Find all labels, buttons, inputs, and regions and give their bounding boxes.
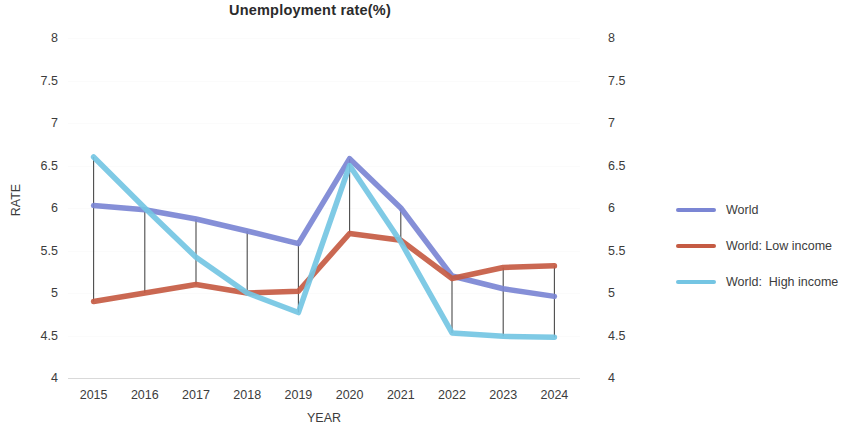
legend-label: World: Low income <box>726 239 832 253</box>
legend-swatch-icon <box>676 244 716 248</box>
legend: WorldWorld: Low incomeWorld: High income <box>676 192 851 300</box>
legend-item[interactable]: World <box>676 192 851 228</box>
legend-swatch-icon <box>676 280 716 284</box>
series-line <box>94 157 555 337</box>
unemployment-rate-chart: Unemployment rate(%) RATE 87.576.565.554… <box>0 0 851 430</box>
x-axis-title: YEAR <box>68 411 580 425</box>
legend-label: World <box>726 203 758 217</box>
legend-item[interactable]: World: High income <box>676 264 851 300</box>
x-axis-tick-label: 2024 <box>524 388 584 402</box>
legend-item[interactable]: World: Low income <box>676 228 851 264</box>
legend-label: World: High income <box>726 275 838 289</box>
legend-swatch-icon <box>676 208 716 212</box>
